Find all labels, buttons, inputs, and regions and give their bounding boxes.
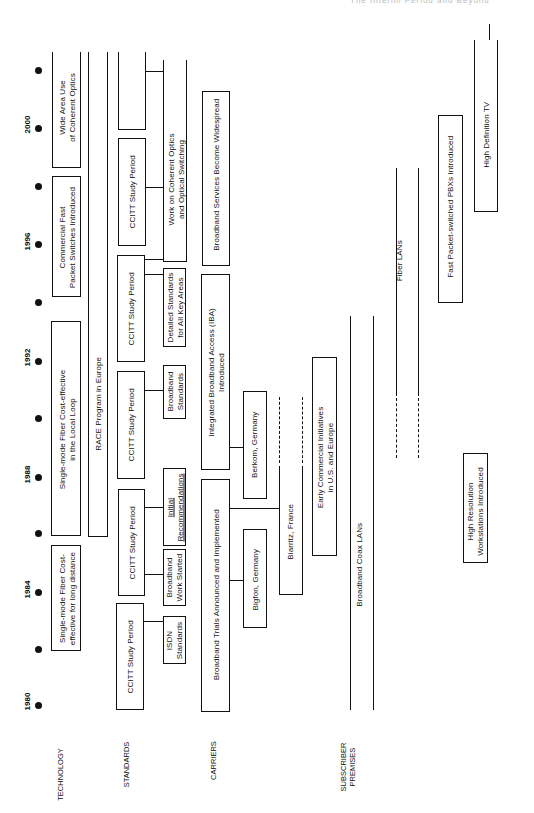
lane-label-line: PREMISES — [348, 743, 357, 792]
year-label: 1980 — [23, 693, 32, 711]
connector — [145, 274, 163, 275]
broadband-work-started-box: BroadbandWork Started — [163, 549, 186, 606]
text-line: ISDN — [165, 617, 175, 665]
connector — [145, 507, 163, 508]
year-dot — [35, 183, 42, 190]
connector — [144, 621, 164, 622]
fast-pbx-box: Fast Packet-switched PBXs Introduced — [438, 115, 463, 303]
year-dot — [35, 299, 42, 306]
connector — [146, 71, 164, 72]
bigfon-label: Bigfon, Germany — [251, 530, 261, 629]
widespread-label: Broadband Services Become Widespread — [212, 87, 222, 262]
lane-carriers: CARRIERS — [209, 741, 218, 780]
ccitt-study-period-6 — [118, 52, 146, 130]
year-dot — [35, 530, 42, 537]
tech-box-fast-packet: Commercial FastPacket Switches Introduce… — [52, 176, 81, 297]
coherent-optics-work-box: Work on Coherent Opticsand Optical Switc… — [163, 60, 187, 262]
pbx-label: Fast Packet-switched PBXs Introduced — [446, 113, 456, 301]
lane-technology: TECHNOLOGY — [56, 748, 65, 801]
ccitt-study-period-4: CCITT Study Period — [117, 255, 145, 362]
biarritz-line — [279, 466, 280, 594]
text-line: Workstations Introduced — [475, 457, 485, 567]
hdtv-box: High Definition TV — [474, 40, 498, 212]
output-label: Work on Coherent Opticsand Optical Switc… — [167, 79, 186, 281]
early-label: Early Commercial Initiativesin U.S. and … — [316, 358, 335, 557]
year-dot — [35, 67, 42, 74]
text-line: Wide Area Use — [58, 50, 68, 166]
study-period-label: CCITT Study Period — [128, 138, 138, 246]
text-line: of Coherent Optics — [67, 50, 77, 166]
tech-box-coherent: Wide Area Useof Coherent Optics — [52, 52, 81, 168]
year-dot — [35, 702, 42, 709]
connector — [230, 580, 243, 581]
biarritz-dashed — [302, 397, 303, 463]
year-dot — [35, 358, 42, 365]
text-line: Single-mode Fiber Cost- — [58, 546, 68, 652]
text-line: Work Started — [175, 549, 185, 606]
lane-standards: STANDARDS — [122, 742, 131, 788]
coax-lan-line — [373, 316, 374, 710]
text-line: Standards — [175, 365, 185, 419]
berkom-germany-box: Berkom, Germany — [243, 391, 267, 499]
year-label: 1996 — [23, 233, 32, 251]
year-dot — [35, 241, 42, 248]
fiber-label: Fiber LANs — [395, 221, 405, 301]
connector — [230, 447, 243, 448]
race-label: RACE Program in Europe — [94, 271, 104, 536]
year-label: 1984 — [23, 581, 32, 599]
iba-box: Integrated Broadband Access (IBA)Introdu… — [201, 274, 230, 470]
ccitt-study-period-1: CCITT Study Period — [116, 603, 144, 710]
biarritz-label: Biarritz, France — [286, 482, 296, 582]
ccitt-study-period-2: CCITT Study Period — [118, 489, 145, 596]
connector — [145, 390, 163, 391]
race-program-continuation — [88, 52, 108, 278]
text-line: Work on Coherent Optics — [167, 79, 177, 281]
year-dot — [35, 646, 42, 653]
initial-recommendations-box: InitialRecommendations — [163, 468, 186, 546]
trials-label: Broadband Trials Announced and Implement… — [212, 478, 222, 711]
running-head: The Interim Period and Beyond — [350, 0, 490, 5]
lane-subscriber-premises: SUBSCRIBERPREMISES — [339, 743, 357, 792]
workstations-label: High ResolutionWorkstations Introduced — [466, 457, 485, 567]
year-label: 1992 — [23, 349, 32, 367]
berkom-label: Berkom, Germany — [250, 391, 260, 499]
text-line: Single-mode Fiber Cost-effective — [58, 322, 68, 537]
text-line: Commercial Fast — [58, 177, 68, 298]
text-line: Standards — [174, 617, 184, 665]
study-period-label: CCITT Study Period — [127, 255, 137, 362]
text-line: Broadband — [166, 365, 176, 419]
fiber-lan-line — [418, 168, 419, 396]
text-line: Broadband — [165, 549, 175, 606]
study-period-label: CCITT Study Period — [126, 603, 136, 710]
coax-lan-line — [350, 316, 351, 710]
output-label: ISDNStandards — [165, 617, 184, 665]
tech-box-local-loop: Single-mode Fiber Cost-effectivein the L… — [51, 321, 81, 536]
tech-label: Wide Area Useof Coherent Optics — [58, 50, 77, 166]
study-period-label: CCITT Study Period — [127, 371, 137, 479]
text-line: Packet Switches Introduced — [68, 177, 78, 298]
fiber-lan-dashed — [396, 398, 397, 458]
biarritz-dashed — [279, 397, 280, 463]
tech-label: Single-mode Fiber Cost-effectivein the L… — [58, 322, 77, 537]
broadband-widespread-box: Broadband Services Become Widespread — [202, 91, 230, 266]
text-line: Recommendations — [175, 469, 185, 547]
year-dot — [35, 474, 42, 481]
hdtv-label: High Definition TV — [482, 49, 492, 221]
connector — [145, 259, 163, 260]
study-period-label: CCITT Study Period — [128, 489, 138, 596]
race-program-box: RACE Program in Europe — [88, 272, 108, 537]
text-line: Initial — [166, 469, 176, 547]
broadband-standards-box: BroadbandStandards — [163, 365, 186, 419]
text-line: High Resolution — [466, 457, 476, 567]
year-dot — [35, 415, 42, 422]
isdn-standards-box: ISDNStandards — [163, 616, 186, 664]
text-line: Introduced — [216, 275, 226, 471]
text-line: Integrated Broadband Access (IBA) — [207, 275, 217, 471]
connector — [146, 187, 164, 188]
biarritz-line — [302, 466, 303, 594]
broadband-trials-box: Broadband Trials Announced and Implement… — [201, 479, 230, 712]
workstations-box: High ResolutionWorkstations Introduced — [463, 453, 488, 563]
coax-label: Broadband Coax LANs — [355, 515, 365, 615]
text-line: in the Local Loop — [68, 322, 78, 537]
ccitt-study-period-3: CCITT Study Period — [117, 371, 145, 479]
